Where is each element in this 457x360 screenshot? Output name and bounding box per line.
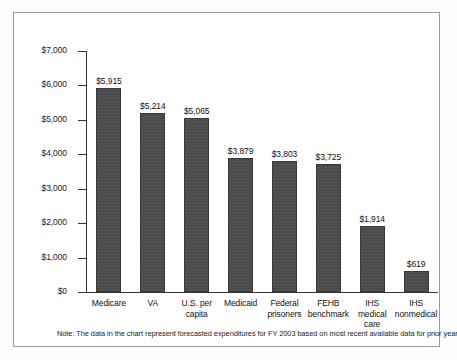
x-axis-category-label: IHSmedicalcare xyxy=(350,298,394,330)
x-axis-category-line: Medicaid xyxy=(219,298,263,309)
x-axis-category-label: IHSnonmedical xyxy=(394,298,438,319)
y-axis-tick: $4,000 xyxy=(73,154,87,155)
y-axis-tick-label: $3,000 xyxy=(42,183,67,193)
x-axis-category-line: IHS xyxy=(394,298,438,309)
bar[interactable] xyxy=(140,113,165,293)
x-axis-category-label: U.S. percapita xyxy=(175,298,219,319)
chart-footnote: Note: The data in the chart represent fo… xyxy=(57,329,449,339)
y-axis-tick: $7,000 xyxy=(73,51,87,52)
bar-value-label: $1,914 xyxy=(359,214,384,224)
x-axis-category-line: capita xyxy=(175,309,219,320)
bar[interactable] xyxy=(316,164,341,292)
x-axis-line xyxy=(86,292,438,293)
bar[interactable] xyxy=(360,226,385,292)
bar-value-label: $5,915 xyxy=(96,76,121,86)
bar-slot: $5,065 xyxy=(184,51,209,292)
y-axis-tick-label: $1,000 xyxy=(42,252,67,262)
x-axis-category-line: nonmedical xyxy=(394,309,438,320)
bar-value-label: $3,879 xyxy=(228,146,253,156)
bar-value-label: $3,725 xyxy=(316,152,341,162)
x-axis-category-label: Medicare xyxy=(87,298,131,309)
bar-value-label: $3,803 xyxy=(272,149,297,159)
chart-frame: $0$1,000$2,000$3,000$4,000$5,000$6,000$7… xyxy=(13,12,440,347)
y-axis-tick: $1,000 xyxy=(73,258,87,259)
x-axis-category-label: FEHBbenchmark xyxy=(306,298,350,319)
x-axis-category-line: FEHB xyxy=(306,298,350,309)
y-axis-tick-mark xyxy=(78,292,87,293)
bar-slot: $3,803 xyxy=(272,51,297,292)
y-axis-tick: $6,000 xyxy=(73,85,87,86)
bar[interactable] xyxy=(404,271,429,292)
bar-slot: $3,725 xyxy=(316,51,341,292)
x-axis-category-line: VA xyxy=(131,298,175,309)
x-axis-category-label: Medicaid xyxy=(219,298,263,309)
bar-slot: $619 xyxy=(404,51,429,292)
y-axis-tick-mark xyxy=(78,51,87,52)
x-axis-category-line: care xyxy=(350,319,394,330)
y-axis-tick-mark xyxy=(78,189,87,190)
bar-value-label: $619 xyxy=(407,259,426,269)
chart-plot-region: $0$1,000$2,000$3,000$4,000$5,000$6,000$7… xyxy=(73,39,441,295)
x-axis-category-line: Medicare xyxy=(87,298,131,309)
x-axis-category-line: U.S. per xyxy=(175,298,219,309)
bar[interactable] xyxy=(272,161,297,292)
y-axis-tick-label: $6,000 xyxy=(42,79,67,89)
bar[interactable] xyxy=(184,118,209,292)
y-axis-tick-label: $7,000 xyxy=(42,45,67,55)
bar-slot: $5,214 xyxy=(140,51,165,292)
bar-value-label: $5,065 xyxy=(184,106,209,116)
x-axis-category-line: Federal xyxy=(263,298,307,309)
y-axis-tick: $3,000 xyxy=(73,189,87,190)
bar-value-label: $5,214 xyxy=(140,101,165,111)
chart-page: $0$1,000$2,000$3,000$4,000$5,000$6,000$7… xyxy=(0,0,457,360)
x-axis-category-line: medical xyxy=(350,309,394,320)
y-axis-tick: $0 xyxy=(73,292,87,293)
x-axis-category-line: prisoners xyxy=(263,309,307,320)
x-axis-category-line: IHS xyxy=(350,298,394,309)
y-axis-tick: $2,000 xyxy=(73,223,87,224)
bar[interactable] xyxy=(228,158,253,292)
bar-slot: $1,914 xyxy=(360,51,385,292)
bars-container: $5,915$5,214$5,065$3,879$3,803$3,725$1,9… xyxy=(87,51,438,292)
y-axis-tick-label: $0 xyxy=(58,286,67,296)
x-axis-category-label: VA xyxy=(131,298,175,309)
x-axis-category-label: Federalprisoners xyxy=(263,298,307,319)
y-axis-tick-mark xyxy=(78,223,87,224)
y-axis-tick-mark xyxy=(78,120,87,121)
y-axis-tick-mark xyxy=(78,85,87,86)
bar[interactable] xyxy=(96,88,121,292)
y-axis-tick-label: $2,000 xyxy=(42,217,67,227)
bar-slot: $3,879 xyxy=(228,51,253,292)
y-axis-tick-mark xyxy=(78,154,87,155)
y-axis-tick-label: $4,000 xyxy=(42,148,67,158)
y-axis-tick-mark xyxy=(78,258,87,259)
bar-slot: $5,915 xyxy=(96,51,121,292)
y-axis-tick: $5,000 xyxy=(73,120,87,121)
y-axis-tick-label: $5,000 xyxy=(42,114,67,124)
x-axis-category-line: benchmark xyxy=(306,309,350,320)
